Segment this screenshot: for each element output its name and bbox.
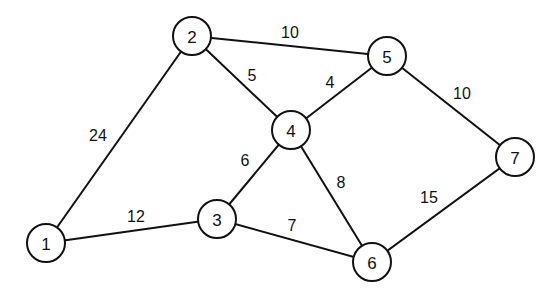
edge-weight-6-7: 15 [420,189,438,206]
node-label: 7 [510,149,519,168]
edge-6-7 [372,157,515,262]
node-5: 5 [368,37,406,75]
node-label: 5 [382,48,391,67]
graph-diagram: 24 10 5 4 10 6 8 12 7 15 1 2 3 4 5 [0,0,558,297]
node-label: 1 [41,235,50,254]
edge-weight-3-4: 6 [241,152,250,169]
edge-5-7 [387,56,515,157]
edge-weight-4-5: 4 [326,74,335,91]
edge-weight-3-6: 7 [288,217,297,234]
node-label: 4 [286,122,295,141]
node-3: 3 [198,200,236,238]
node-label: 3 [212,211,221,230]
edge-weight-1-3: 12 [127,208,145,225]
edge-2-4 [192,36,291,130]
edge-weight-4-6: 8 [337,174,346,191]
node-2: 2 [173,17,211,55]
node-1: 1 [27,224,65,262]
node-label: 2 [187,28,196,47]
nodes-layer: 1 2 3 4 5 6 7 [27,17,534,281]
edge-weight-2-5: 10 [281,24,299,41]
node-4: 4 [272,111,310,149]
node-6: 6 [353,243,391,281]
edge-weight-5-7: 10 [453,85,471,102]
edge-weight-2-4: 5 [248,67,257,84]
edge-weight-1-2: 24 [89,127,107,144]
node-label: 6 [367,254,376,273]
node-7: 7 [496,138,534,176]
edges-layer [46,36,515,262]
edge-1-2 [46,36,192,243]
